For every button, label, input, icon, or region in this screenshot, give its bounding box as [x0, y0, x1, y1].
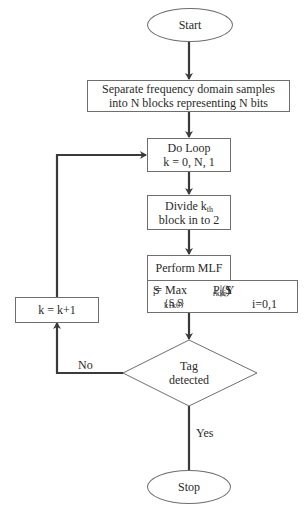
divide-line-1: Divide kth	[165, 199, 213, 213]
stop-label: Stop	[178, 480, 200, 494]
start-label: Start	[179, 18, 202, 32]
perform-mlf-header: Perform MLF	[147, 255, 231, 281]
do-loop-line-2: k = 0, N, 1	[163, 155, 214, 169]
edge-label-no: No	[78, 358, 93, 372]
eq-probability-term: Pr (Yk| Ski)	[213, 283, 226, 298]
decision-line-2: detected	[169, 373, 209, 387]
increment-label: k = k+1	[38, 303, 76, 317]
divide-line-2: block in to 2	[159, 213, 219, 227]
decision-line-1: Tag	[180, 359, 198, 373]
divide-block-box: Divide kth block in to 2	[147, 195, 231, 230]
edge-label-yes: Yes	[196, 426, 213, 440]
do-loop-line-1: Do Loop	[168, 141, 211, 155]
separate-line-1: Separate frequency domain samples	[102, 82, 275, 96]
eq-set-term: {Sk1 , Sk0}	[164, 297, 180, 308]
start-terminal: Start	[147, 8, 233, 42]
mlf-equation-box: Si = Max {Sk1 , Sk0} Pr (Yk| Ski) i=0,1	[147, 280, 298, 313]
separate-samples-box: Separate frequency domain samples into N…	[87, 80, 290, 112]
increment-k-box: k = k+1	[15, 297, 99, 323]
separate-line-2: into N blocks representing N bits	[109, 96, 268, 110]
eq-index-term: i=0,1	[252, 297, 277, 312]
edge-increment-to-loop	[57, 155, 146, 297]
mlf-header-label: Perform MLF	[156, 261, 223, 275]
do-loop-box: Do Loop k = 0, N, 1	[147, 138, 231, 172]
stop-terminal: Stop	[147, 470, 231, 504]
eq-max-term: Si = Max	[153, 283, 155, 298]
decision-label: Tag detected	[153, 355, 225, 391]
